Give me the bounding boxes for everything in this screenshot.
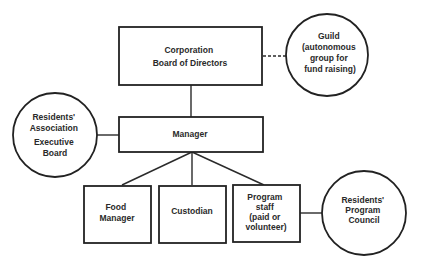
node-label-line: Corporation: [164, 45, 213, 55]
node-food-manager: Food Manager: [84, 186, 151, 243]
node-label-line: Executive: [34, 137, 74, 147]
node-label-line: Program: [345, 205, 380, 215]
node-label-line: Council: [348, 215, 379, 225]
node-label-line: Board: [43, 148, 68, 158]
node-guild: Guild (autonomous group for fund raising…: [286, 14, 368, 96]
edge-manager-food-manager: [122, 152, 192, 185]
node-label-line: Board of Directors: [153, 58, 228, 68]
node-label-line: (paid or: [249, 212, 281, 222]
node-custodian: Custodian: [159, 186, 226, 243]
svg-text:Custodian: Custodian: [171, 206, 213, 216]
node-label-line: (autonomous: [302, 42, 356, 52]
node-label-line: Manager: [100, 213, 136, 223]
node-board-of-directors: Corporation Board of Directors: [119, 27, 262, 85]
org-chart: Corporation Board of Directors Guild (au…: [0, 0, 421, 265]
node-label-line: volunteer): [245, 222, 286, 232]
node-label-line: Residents': [341, 195, 384, 205]
node-residents-association: Residents' Association Executive Board: [13, 93, 97, 177]
node-label-line: Residents': [32, 112, 75, 122]
node-program-staff: Program staff (paid or volunteer): [233, 185, 300, 242]
node-label-line: Guild: [318, 31, 340, 41]
svg-text:Manager: Manager: [173, 129, 209, 139]
node-label-line: Association: [30, 123, 78, 133]
edge-manager-program-staff: [192, 152, 264, 185]
node-label-line: staff: [256, 202, 274, 212]
node-label-line: Custodian: [171, 206, 213, 216]
node-label-line: Food: [105, 202, 126, 212]
node-label-line: Manager: [173, 129, 209, 139]
node-label-line: fund raising): [304, 64, 356, 74]
node-residents-program-council: Residents' Program Council: [322, 171, 406, 255]
node-label-line: group for: [310, 53, 348, 63]
node-manager: Manager: [119, 117, 263, 152]
node-label-line: Program: [247, 192, 282, 202]
svg-text:Program staff (pai: Program staff (paid or volunteer): [245, 192, 286, 232]
